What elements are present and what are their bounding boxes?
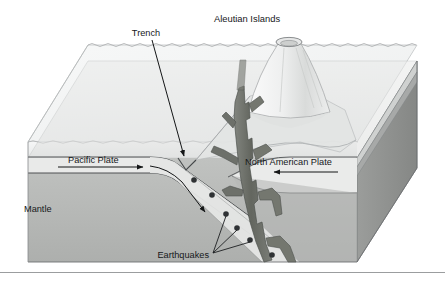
- label-pacific-plate: Pacific Plate: [68, 155, 119, 165]
- figure-root: Aleutian Islands Trench Pacific Plate No…: [0, 0, 445, 282]
- label-earthquakes: Earthquakes: [157, 250, 209, 260]
- earthquake-dot-icon: [269, 252, 275, 258]
- subduction-zone-diagram: Aleutian Islands Trench Pacific Plate No…: [0, 0, 445, 282]
- label-trench: Trench: [132, 28, 160, 38]
- earthquake-dot-icon: [234, 225, 240, 231]
- earthquake-dot-icon: [223, 211, 229, 217]
- earthquake-dot-icon: [191, 177, 197, 183]
- label-mantle: Mantle: [24, 204, 52, 214]
- label-aleutian-islands: Aleutian Islands: [214, 13, 281, 24]
- earthquake-dot-icon: [247, 237, 253, 243]
- volcano-crater-inner: [281, 40, 298, 46]
- label-north-american-plate: North American Plate: [245, 157, 332, 167]
- earthquake-dot-icon: [209, 192, 215, 198]
